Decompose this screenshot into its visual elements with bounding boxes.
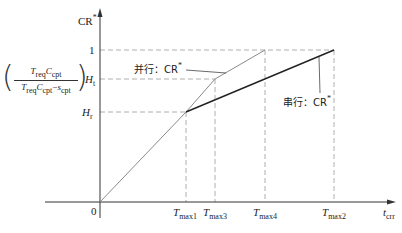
origin-label: 0: [91, 206, 97, 217]
parallel-leader-line: [186, 70, 226, 73]
y-tick-hr: Hr: [82, 107, 93, 121]
x-tick-tmax3: Tmax3: [203, 207, 227, 221]
y-axis-label: CR*: [78, 14, 97, 27]
axes: [45, 14, 390, 218]
serial-series-label: 串行：CR*: [283, 95, 331, 108]
y-axis-arrow-icon: [98, 8, 103, 17]
parallel-series-label: 并行：CR*: [134, 62, 182, 75]
left-paren-icon: (: [2, 62, 14, 92]
serial-leader-line: [319, 57, 320, 93]
x-tick-tmax4: Tmax4: [253, 207, 277, 221]
x-axis-label: tcrr: [383, 207, 395, 221]
x-axis-arrow-icon: [387, 200, 396, 205]
chart-canvas: [0, 0, 402, 233]
x-tick-tmax2: Tmax2: [322, 207, 346, 221]
ht-formula: TreqCcpt TreqCcpt−scpt: [14, 66, 78, 95]
x-tick-tmax1: Tmax1: [173, 207, 197, 221]
parallel-series-line: [100, 50, 265, 202]
right-paren-icon: ): [76, 62, 88, 92]
y-tick-one: 1: [89, 45, 95, 56]
